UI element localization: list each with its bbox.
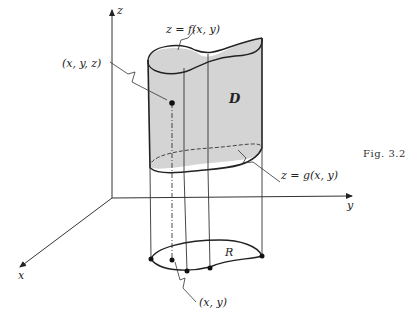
x-axis-label: x [18,269,25,282]
point-xy-dot [170,258,175,263]
cylinder-body [148,38,262,169]
solid-region-d: D [148,38,262,173]
region-r-outline [151,240,262,270]
bottom-surface-label: z = g(x, y) [280,169,338,182]
point-2d-label: (x, y) [199,296,227,309]
region-r-label: R [224,246,233,259]
x-axis [20,198,112,267]
z-axis-label: z [116,4,123,17]
diagram-canvas: D R z y x z = f(x, y) z = g(x, y) (x, y,… [0,0,415,326]
y-axis [112,196,352,198]
point-3d-label: (x, y, z) [62,57,101,70]
base-region-r: R [149,240,265,274]
y-axis-label: y [346,199,354,212]
top-surface-label: z = f(x, y) [165,23,220,36]
point-xyz-dot [169,100,175,106]
region-d-label: D [228,91,241,106]
figure-caption: Fig. 3.2 [363,148,406,159]
